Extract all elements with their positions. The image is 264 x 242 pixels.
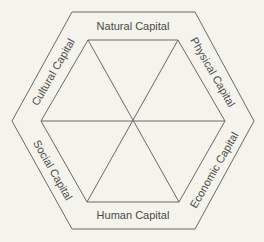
capitals-hexagon-diagram: Natural Capital Physical Capital Economi… [0,0,264,242]
label-human-capital: Human Capital [97,209,170,221]
label-natural-capital: Natural Capital [97,20,170,32]
label-economic-capital: Economic Capital [187,130,240,210]
inner-spokes [41,40,225,202]
